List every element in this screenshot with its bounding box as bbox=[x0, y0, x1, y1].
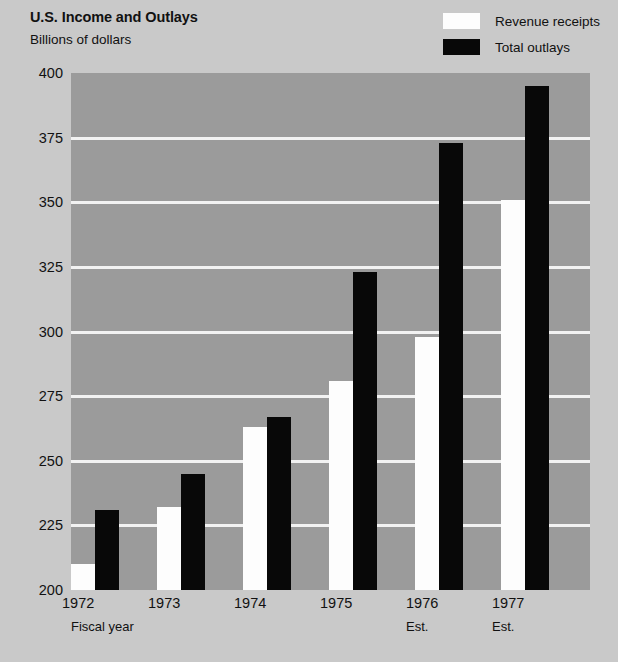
bar-outlays-1973 bbox=[181, 474, 205, 590]
outlays-swatch-icon bbox=[443, 39, 480, 55]
x-tick-group-1974: 1974 bbox=[234, 594, 320, 612]
legend-label-revenue: Revenue receipts bbox=[495, 14, 600, 29]
y-tick-label-375: 375 bbox=[0, 131, 63, 145]
x-tick-label-1974: 1974 bbox=[234, 594, 320, 612]
bar-revenue-1976 bbox=[415, 337, 439, 590]
y-tick-label-250: 250 bbox=[0, 454, 63, 468]
bar-revenue-1975 bbox=[329, 381, 353, 590]
plot-area bbox=[71, 73, 590, 590]
x-tick-label-1972: 1972 bbox=[62, 594, 148, 612]
bar-outlays-1972 bbox=[95, 510, 119, 590]
x-tick-note-1977: Est. bbox=[492, 618, 578, 636]
y-tick-label-325: 325 bbox=[0, 260, 63, 274]
bar-group-1977 bbox=[501, 73, 549, 590]
bar-group-1972 bbox=[71, 73, 119, 590]
page-title: U.S. Income and Outlays bbox=[30, 8, 198, 26]
x-tick-label-1977: 1977 bbox=[492, 594, 578, 612]
bar-revenue-1973 bbox=[157, 507, 181, 590]
chart-header: U.S. Income and Outlays Billions of doll… bbox=[0, 0, 618, 66]
y-tick-label-200: 200 bbox=[0, 583, 63, 597]
bar-revenue-1972 bbox=[71, 564, 95, 590]
y-tick-label-350: 350 bbox=[0, 195, 63, 209]
bar-outlays-1976 bbox=[439, 143, 463, 590]
x-tick-group-1976: 1976Est. bbox=[406, 594, 492, 636]
title-block: U.S. Income and Outlays Billions of doll… bbox=[30, 8, 198, 49]
revenue-swatch-icon bbox=[443, 13, 480, 29]
x-tick-group-1977: 1977Est. bbox=[492, 594, 578, 636]
bar-revenue-1977 bbox=[501, 200, 525, 590]
bar-outlays-1977 bbox=[525, 86, 549, 590]
x-tick-label-1976: 1976 bbox=[406, 594, 492, 612]
legend-label-outlays: Total outlays bbox=[495, 40, 570, 55]
x-tick-group-1972: 1972 bbox=[62, 594, 148, 612]
chart-subtitle: Billions of dollars bbox=[30, 31, 198, 49]
x-tick-label-1975: 1975 bbox=[320, 594, 406, 612]
x-axis-label: Fiscal year bbox=[71, 618, 134, 636]
chart-legend: Revenue receipts Total outlays bbox=[443, 10, 618, 62]
y-tick-label-400: 400 bbox=[0, 66, 63, 80]
bar-outlays-1974 bbox=[267, 417, 291, 590]
y-tick-label-300: 300 bbox=[0, 325, 63, 339]
bar-group-1974 bbox=[243, 73, 291, 590]
x-tick-group-1973: 1973 bbox=[148, 594, 234, 612]
x-tick-note-1976: Est. bbox=[406, 618, 492, 636]
legend-item-outlays: Total outlays bbox=[443, 36, 618, 58]
bars-container bbox=[71, 73, 590, 590]
y-tick-label-225: 225 bbox=[0, 518, 63, 532]
x-tick-label-1973: 1973 bbox=[148, 594, 234, 612]
x-tick-group-1975: 1975 bbox=[320, 594, 406, 612]
bar-group-1976 bbox=[415, 73, 463, 590]
y-axis: 200225250275300325350375400 bbox=[0, 73, 63, 590]
legend-item-revenue: Revenue receipts bbox=[443, 10, 618, 32]
bar-outlays-1975 bbox=[353, 272, 377, 590]
x-axis: 19721973197419751976Est.1977Est. bbox=[71, 594, 590, 654]
bar-revenue-1974 bbox=[243, 427, 267, 590]
y-tick-label-275: 275 bbox=[0, 389, 63, 403]
bar-group-1975 bbox=[329, 73, 377, 590]
bar-group-1973 bbox=[157, 73, 205, 590]
